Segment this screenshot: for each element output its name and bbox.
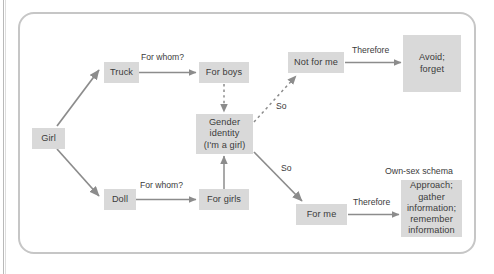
- edge-label-so-upper: So: [276, 101, 287, 111]
- edge-label-truck-for-whom: For whom?: [141, 52, 184, 62]
- node-for-girls-label: For girls: [207, 194, 241, 205]
- edge-girl-to-truck: [57, 70, 99, 126]
- edge-label-text: So: [281, 163, 292, 173]
- node-avoid-forget[interactable]: Avoid; forget: [403, 35, 461, 92]
- node-doll[interactable]: Doll: [104, 189, 136, 210]
- node-for-girls[interactable]: For girls: [199, 189, 249, 210]
- node-girl[interactable]: Girl: [32, 128, 65, 149]
- node-not-for-me-label: Not for me: [294, 57, 338, 68]
- node-truck-label: Truck: [110, 67, 133, 78]
- edge-gender-identity-to-not-for-me: [254, 76, 296, 122]
- node-avoid-forget-label: Avoid; forget: [419, 52, 445, 74]
- node-for-boys[interactable]: For boys: [199, 62, 249, 83]
- node-gender-identity-label: Gender identity (I'm a girl): [204, 117, 246, 151]
- edge-label-therefore-upper: Therefore: [352, 45, 389, 55]
- node-gender-identity[interactable]: Gender identity (I'm a girl): [196, 114, 253, 154]
- edge-label-so-lower: So: [281, 163, 292, 173]
- node-not-for-me[interactable]: Not for me: [288, 52, 344, 73]
- node-for-me[interactable]: For me: [296, 204, 347, 225]
- edge-label-text: So: [276, 101, 287, 111]
- edge-label-doll-for-whom: For whom?: [140, 180, 183, 190]
- node-doll-label: Doll: [112, 194, 128, 205]
- edge-girl-to-doll: [57, 149, 99, 196]
- group-label-text: Own-sex schema: [385, 166, 453, 176]
- node-girl-label: Girl: [41, 133, 56, 144]
- node-approach-gather-label: Approach; gather information; remember i…: [407, 180, 456, 236]
- node-approach-gather[interactable]: Approach; gather information; remember i…: [401, 180, 462, 237]
- figure-canvas: Girl Truck Doll For boys For girls Gende…: [0, 0, 494, 274]
- edge-label-text: For whom?: [140, 180, 183, 190]
- edge-gender-identity-to-for-me: [254, 152, 302, 201]
- edge-label-therefore-lower: Therefore: [353, 197, 390, 207]
- edge-label-text: Therefore: [352, 45, 389, 55]
- node-for-boys-label: For boys: [206, 67, 243, 78]
- node-for-me-label: For me: [307, 209, 337, 220]
- node-truck[interactable]: Truck: [104, 62, 139, 83]
- edge-label-text: For whom?: [141, 52, 184, 62]
- group-label-own-sex-schema: Own-sex schema: [385, 166, 453, 176]
- edge-label-text: Therefore: [353, 197, 390, 207]
